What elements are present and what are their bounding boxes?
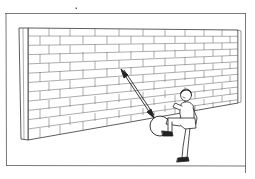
illustration — [0, 0, 255, 179]
wall-right-edge — [238, 30, 241, 103]
brick-wall — [19, 28, 241, 140]
shoe-kicking — [162, 131, 173, 136]
shoe-standing — [177, 157, 189, 162]
speck — [76, 8, 78, 10]
